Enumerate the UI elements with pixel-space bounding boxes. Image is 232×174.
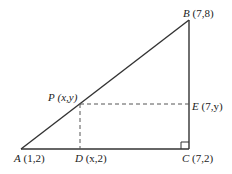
segment-ab — [21, 20, 189, 149]
label-b: B (7,8) — [183, 7, 214, 20]
label-c: C (7,2) — [182, 152, 214, 165]
label-e: E (7,y) — [191, 100, 223, 113]
label-d: D (x,2) — [74, 152, 107, 165]
label-p: P (x,y) — [47, 91, 78, 104]
triangle-diagram: B (7,8) P (x,y) E (7,y) A (1,2) D (x,2) … — [0, 0, 232, 174]
right-angle-marker — [181, 142, 189, 149]
label-a: A (1,2) — [13, 152, 45, 165]
